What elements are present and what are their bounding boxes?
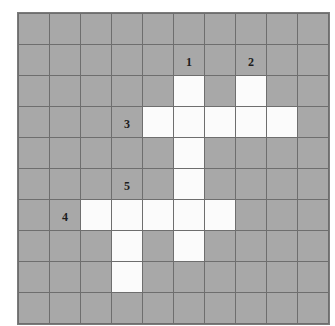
grid-cell-blocked bbox=[267, 76, 298, 107]
grid-cell-blocked bbox=[81, 107, 112, 138]
grid-row: 4 bbox=[19, 200, 329, 231]
crossword-grid: 12354 bbox=[18, 13, 329, 324]
grid-cell-blocked bbox=[143, 76, 174, 107]
grid-cell-blocked bbox=[236, 262, 267, 293]
grid-cell-blocked bbox=[267, 200, 298, 231]
grid-cell-blocked bbox=[143, 45, 174, 76]
grid-cell-blocked bbox=[112, 138, 143, 169]
grid-cell-blocked bbox=[298, 138, 329, 169]
grid-cell-open[interactable] bbox=[174, 107, 205, 138]
grid-cell-blocked bbox=[19, 200, 50, 231]
clue-number: 5 bbox=[112, 180, 142, 199]
grid-row bbox=[19, 262, 329, 293]
grid-cell-open[interactable] bbox=[112, 262, 143, 293]
grid-cell-blocked bbox=[236, 169, 267, 200]
grid-cell-blocked bbox=[19, 231, 50, 262]
grid-row: 12 bbox=[19, 45, 329, 76]
grid-cell-blocked bbox=[50, 14, 81, 45]
grid-cell-blocked bbox=[236, 293, 267, 324]
grid-cell-open[interactable] bbox=[143, 107, 174, 138]
grid-row bbox=[19, 76, 329, 107]
grid-cell-blocked bbox=[236, 231, 267, 262]
clue-number: 1 bbox=[174, 56, 204, 75]
crossword-grid-body: 12354 bbox=[19, 14, 329, 324]
grid-cell-blocked bbox=[81, 169, 112, 200]
grid-row: 5 bbox=[19, 169, 329, 200]
grid-cell-blocked bbox=[81, 138, 112, 169]
grid-cell-blocked bbox=[81, 14, 112, 45]
grid-cell-open[interactable] bbox=[205, 200, 236, 231]
clue-number: 2 bbox=[236, 56, 266, 75]
grid-cell-open[interactable] bbox=[174, 231, 205, 262]
grid-cell-blocked bbox=[267, 45, 298, 76]
grid-cell-open[interactable] bbox=[174, 76, 205, 107]
grid-cell-blocked: 5 bbox=[112, 169, 143, 200]
grid-cell-blocked bbox=[298, 76, 329, 107]
grid-cell-blocked bbox=[143, 138, 174, 169]
grid-cell-open[interactable] bbox=[174, 138, 205, 169]
grid-cell-blocked bbox=[50, 107, 81, 138]
grid-cell-blocked bbox=[267, 14, 298, 45]
grid-cell-blocked bbox=[19, 107, 50, 138]
grid-cell-blocked bbox=[50, 45, 81, 76]
grid-cell-open[interactable] bbox=[205, 107, 236, 138]
grid-cell-blocked bbox=[81, 293, 112, 324]
grid-row bbox=[19, 138, 329, 169]
grid-cell-blocked bbox=[205, 14, 236, 45]
grid-cell-blocked bbox=[19, 76, 50, 107]
grid-cell-open[interactable] bbox=[174, 200, 205, 231]
grid-cell-blocked bbox=[298, 14, 329, 45]
grid-cell-blocked bbox=[19, 45, 50, 76]
grid-cell-blocked bbox=[174, 262, 205, 293]
grid-cell-blocked bbox=[236, 138, 267, 169]
grid-cell-blocked bbox=[19, 293, 50, 324]
grid-cell-blocked bbox=[236, 14, 267, 45]
grid-cell-blocked bbox=[205, 293, 236, 324]
grid-row bbox=[19, 14, 329, 45]
crossword-puzzle: 12354 bbox=[0, 0, 335, 326]
grid-cell-blocked bbox=[81, 45, 112, 76]
grid-cell-open[interactable] bbox=[143, 200, 174, 231]
grid-cell-blocked bbox=[19, 138, 50, 169]
grid-cell-blocked bbox=[81, 231, 112, 262]
grid-row: 3 bbox=[19, 107, 329, 138]
grid-cell-blocked bbox=[298, 231, 329, 262]
clue-number: 4 bbox=[50, 211, 80, 230]
grid-cell-open[interactable] bbox=[267, 107, 298, 138]
grid-cell-open[interactable] bbox=[236, 107, 267, 138]
grid-cell-blocked bbox=[112, 76, 143, 107]
grid-cell-blocked bbox=[205, 138, 236, 169]
grid-cell-blocked bbox=[298, 262, 329, 293]
grid-cell-blocked bbox=[143, 293, 174, 324]
grid-cell-blocked bbox=[298, 293, 329, 324]
grid-cell-blocked bbox=[267, 262, 298, 293]
grid-cell-open[interactable] bbox=[81, 200, 112, 231]
grid-cell-blocked bbox=[112, 14, 143, 45]
grid-cell-blocked bbox=[267, 293, 298, 324]
grid-cell-blocked bbox=[50, 293, 81, 324]
grid-cell-blocked bbox=[267, 231, 298, 262]
grid-cell-open[interactable] bbox=[112, 200, 143, 231]
crossword-grid-frame: 12354 bbox=[17, 12, 330, 325]
grid-cell-blocked bbox=[81, 76, 112, 107]
grid-cell-blocked bbox=[267, 138, 298, 169]
grid-cell-blocked bbox=[205, 169, 236, 200]
grid-cell-blocked bbox=[143, 169, 174, 200]
grid-cell-open[interactable] bbox=[174, 169, 205, 200]
grid-cell-blocked: 3 bbox=[112, 107, 143, 138]
grid-cell-blocked bbox=[50, 262, 81, 293]
grid-row bbox=[19, 293, 329, 324]
grid-cell-blocked bbox=[112, 45, 143, 76]
grid-cell-blocked bbox=[174, 14, 205, 45]
grid-cell-blocked bbox=[19, 14, 50, 45]
grid-cell-blocked bbox=[50, 169, 81, 200]
grid-cell-blocked bbox=[19, 169, 50, 200]
grid-cell-blocked bbox=[143, 231, 174, 262]
grid-cell-blocked bbox=[19, 262, 50, 293]
grid-cell-open[interactable] bbox=[236, 76, 267, 107]
grid-cell-blocked bbox=[50, 231, 81, 262]
grid-cell-open[interactable] bbox=[112, 231, 143, 262]
grid-cell-blocked: 2 bbox=[236, 45, 267, 76]
clue-number: 3 bbox=[112, 118, 142, 137]
grid-row bbox=[19, 231, 329, 262]
